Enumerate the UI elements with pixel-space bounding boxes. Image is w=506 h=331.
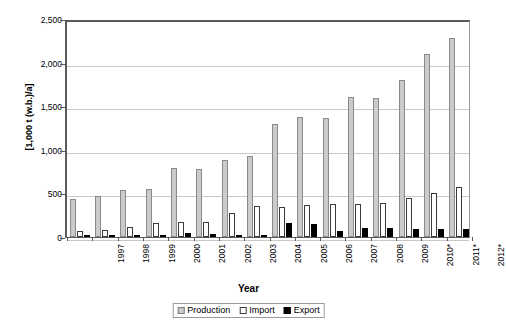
import-swatch <box>239 307 246 314</box>
bar-import <box>330 204 336 237</box>
legend-item-export[interactable]: Export <box>284 305 320 315</box>
bar-production <box>196 169 202 237</box>
bar-import <box>406 198 412 237</box>
bar-group <box>323 22 343 237</box>
y-axis-tick-mark <box>60 238 65 239</box>
x-axis-tick-label: 2004 <box>294 244 303 288</box>
y-axis-tick-label: 1,500 <box>2 103 62 112</box>
bar-export <box>362 228 368 237</box>
bar-production <box>373 98 379 237</box>
bar-export <box>109 235 115 237</box>
bar-group <box>297 22 317 237</box>
bar-production <box>348 97 354 237</box>
bar-export <box>261 235 267 237</box>
bar-export <box>286 223 292 237</box>
x-axis-tick-mark <box>244 237 245 241</box>
bar-group <box>373 22 393 237</box>
x-axis-tick-mark <box>396 237 397 241</box>
x-axis-tick-mark <box>143 237 144 241</box>
bar-import <box>77 231 83 237</box>
x-axis-tick-label: 2009 <box>421 244 430 288</box>
x-axis-tick-mark <box>219 237 220 241</box>
bar-export <box>413 229 419 237</box>
x-axis-tick-label: 1997 <box>117 244 126 288</box>
bar-import <box>178 222 184 237</box>
x-axis-tick-mark <box>67 237 68 241</box>
bar-import <box>127 227 133 237</box>
x-axis-tick-label: 2012* <box>497 244 506 288</box>
x-axis-tick-mark <box>320 237 321 241</box>
x-axis-tick-mark <box>421 237 422 241</box>
bar-group <box>424 22 444 237</box>
bar-production <box>171 168 177 237</box>
x-axis-tick-label: 2008 <box>396 244 405 288</box>
x-axis-tick-label: 1999 <box>168 244 177 288</box>
x-axis-tick-mark <box>92 237 93 241</box>
x-axis-tick-label: 2006 <box>345 244 354 288</box>
bar-production <box>70 199 76 237</box>
x-axis-tick-mark <box>345 237 346 241</box>
bar-export <box>210 234 216 237</box>
bar-group <box>146 22 166 237</box>
bar-production <box>272 124 278 237</box>
bar-import <box>229 213 235 237</box>
bar-group <box>70 22 90 237</box>
bar-group <box>95 22 115 237</box>
bar-export <box>387 228 393 237</box>
bar-export <box>463 229 469 237</box>
bar-export <box>311 224 317 237</box>
bar-export <box>134 235 140 237</box>
bar-production <box>120 190 126 237</box>
bar-production <box>297 117 303 237</box>
bar-group <box>196 22 216 237</box>
bar-export <box>185 233 191 237</box>
bar-group <box>247 22 267 237</box>
legend-item-production[interactable]: Production <box>177 305 230 315</box>
bar-export <box>438 229 444 237</box>
bar-production <box>399 80 405 237</box>
bar-group <box>399 22 419 237</box>
x-axis-tick-label: 1998 <box>142 244 151 288</box>
bar-import <box>355 204 361 237</box>
legend-label: Export <box>294 305 320 315</box>
bar-export <box>84 235 90 237</box>
bar-import <box>456 187 462 237</box>
x-axis-tick-mark <box>371 237 372 241</box>
x-axis-tick-label: 2001 <box>218 244 227 288</box>
legend-item-import[interactable]: Import <box>239 305 275 315</box>
y-axis-tick-label: 1,000 <box>2 147 62 156</box>
bar-production <box>247 156 253 237</box>
y-axis-tick-label: 2,500 <box>2 16 62 25</box>
bar-group <box>348 22 368 237</box>
bar-import <box>203 222 209 237</box>
y-axis-title: [1,000 t (w.b.)/a] <box>24 27 34 207</box>
bar-import <box>102 230 108 237</box>
production-swatch <box>177 307 184 314</box>
x-axis-tick-mark <box>194 237 195 241</box>
plot-area <box>65 20 470 238</box>
x-axis-tick-mark <box>118 237 119 241</box>
y-axis-tick-label: 0 <box>2 234 62 243</box>
bar-production <box>449 38 455 237</box>
bar-production <box>424 54 430 237</box>
x-axis-title: Year <box>0 283 497 294</box>
bar-import <box>279 207 285 237</box>
x-axis-tick-label: 2005 <box>320 244 329 288</box>
export-swatch <box>284 307 291 314</box>
bar-import <box>304 205 310 237</box>
x-axis-tick-mark <box>472 237 473 241</box>
x-axis-tick-label: 2003 <box>269 244 278 288</box>
bar-import <box>431 193 437 237</box>
bar-group <box>222 22 242 237</box>
legend-label: Import <box>249 305 275 315</box>
bar-import <box>153 223 159 237</box>
x-axis-tick-mark <box>168 237 169 241</box>
bar-production <box>95 196 101 237</box>
bar-export <box>160 235 166 237</box>
x-axis-tick-label: 2007 <box>370 244 379 288</box>
x-axis-tick-label: 2000 <box>193 244 202 288</box>
x-axis-tick-mark <box>295 237 296 241</box>
bar-group <box>120 22 140 237</box>
x-axis-tick-mark <box>270 237 271 241</box>
bar-import <box>380 203 386 237</box>
